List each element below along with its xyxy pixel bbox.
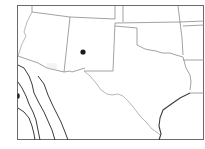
edge-landmass-fragment	[17, 93, 19, 99]
map-frame	[18, 6, 204, 140]
outline-map	[0, 0, 205, 149]
location-marker	[80, 49, 85, 54]
map-figure	[0, 0, 205, 149]
